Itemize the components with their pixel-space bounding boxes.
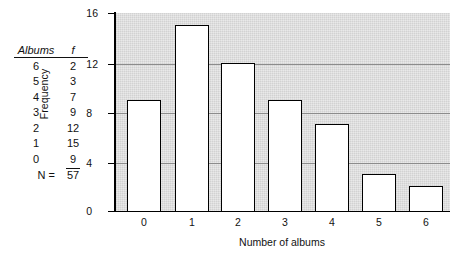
xtick-label-6: 6	[415, 216, 437, 228]
bar-albums-0	[127, 100, 161, 211]
xtick-label-0: 0	[133, 216, 155, 228]
gridline-12	[115, 64, 450, 65]
histogram-chart: 0 4 8 12 16 0 1 2 3 4 5 6 Frequency Numb…	[0, 0, 465, 263]
bar-albums-2	[221, 63, 255, 212]
bar-albums-4	[315, 124, 349, 211]
y-axis-title: Frequency	[38, 34, 50, 154]
ytick-mark-0	[108, 211, 115, 212]
xtick-label-3: 3	[274, 216, 296, 228]
ytick-mark-4	[108, 163, 115, 164]
xtick-label-5: 5	[368, 216, 390, 228]
bar-albums-5	[362, 174, 396, 211]
x-axis-line	[114, 211, 450, 213]
figure-container: Albums f 6 2 5 3 4 7 3 9	[0, 0, 465, 263]
ytick-label-8: 8	[74, 107, 92, 119]
bar-albums-3	[268, 100, 302, 211]
xtick-label-2: 2	[227, 216, 249, 228]
ytick-mark-16	[108, 13, 115, 14]
ytick-label-12: 12	[80, 58, 98, 70]
ytick-label-4: 4	[74, 157, 92, 169]
y-axis-line	[114, 12, 116, 212]
ytick-mark-12	[108, 64, 115, 65]
ytick-label-0: 0	[74, 205, 92, 217]
xtick-label-1: 1	[181, 216, 203, 228]
ytick-label-16: 16	[80, 7, 98, 19]
x-axis-title: Number of albums	[114, 236, 450, 248]
bar-albums-1	[175, 25, 209, 211]
bar-albums-6	[409, 186, 443, 211]
xtick-label-4: 4	[321, 216, 343, 228]
ytick-mark-8	[108, 113, 115, 114]
